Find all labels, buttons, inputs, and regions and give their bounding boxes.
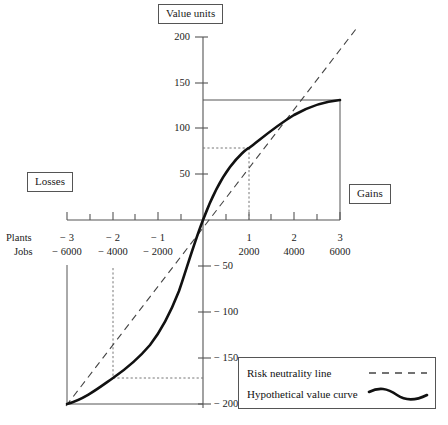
y-ticks-lower — [198, 266, 211, 404]
x-tick-jobs-neg2000: − 2000 — [132, 246, 184, 257]
y-tick-label-100: 100 — [156, 122, 190, 133]
axis-row-name-jobs: Jobs — [14, 246, 33, 257]
legend-swatch-dashed-line — [367, 364, 429, 382]
gains-label-box: Gains — [349, 184, 391, 204]
x-tick-plants-neg1: − 1 — [138, 232, 178, 243]
losses-label-text: Losses — [35, 175, 65, 187]
legend-item-value-curve: Hypothetical value curve — [247, 383, 429, 405]
losses-label-box: Losses — [27, 172, 73, 192]
chart-title-box: Value units — [158, 4, 223, 24]
y-tick-label-200: 200 — [156, 31, 190, 42]
y-tick-label-150: 150 — [156, 77, 190, 88]
y-tick-label-neg50: − 50 — [214, 260, 233, 271]
x-tick-plants-3: 3 — [320, 232, 360, 243]
x-tick-plants-2: 2 — [274, 232, 314, 243]
x-tick-jobs-4000: 4000 — [268, 246, 320, 257]
gains-label-text: Gains — [357, 187, 383, 199]
legend-swatch-wave-curve — [367, 385, 429, 403]
chart-legend: Risk neutrality line Hypothetical value … — [238, 357, 436, 409]
risk-neutrality-line — [66, 29, 356, 406]
y-tick-label-neg200: − 200 — [214, 398, 238, 409]
chart-title-text: Value units — [166, 7, 215, 19]
y-tick-label-neg150: − 150 — [214, 352, 238, 363]
y-ticks-upper — [195, 37, 208, 174]
y-tick-label-50: 50 — [156, 168, 190, 179]
x-tick-jobs-neg6000: − 6000 — [41, 246, 93, 257]
legend-item-risk-neutrality: Risk neutrality line — [247, 362, 429, 384]
x-tick-plants-neg3: − 3 — [47, 232, 87, 243]
legend-label-risk-neutrality: Risk neutrality line — [247, 367, 331, 379]
x-tick-plants-1: 1 — [229, 232, 269, 243]
y-tick-label-neg100: − 100 — [214, 306, 238, 317]
axis-row-name-plants: Plants — [6, 232, 32, 243]
x-tick-plants-neg2: − 2 — [93, 232, 133, 243]
x-tick-jobs-6000: 6000 — [314, 246, 366, 257]
legend-label-value-curve: Hypothetical value curve — [247, 388, 358, 400]
